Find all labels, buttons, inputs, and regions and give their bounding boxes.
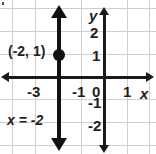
y-axis-up-arrow-icon (99, 7, 109, 15)
gridline-horizontal-y-pos3 (0, 8, 156, 9)
x-axis-left-arrow-icon (1, 72, 9, 82)
point-coordinate-label: (-2, 1) (8, 44, 45, 58)
plotted-line-down-arrow-icon (51, 138, 67, 151)
line-equation-label: x = -2 (7, 113, 43, 127)
y-axis-label: y (89, 8, 97, 23)
gridline-horizontal-y-pos2 (0, 31, 156, 32)
x-axis (6, 76, 148, 79)
y-tick-label-neg2: -2 (88, 118, 101, 133)
y-tick-label-pos1: 1 (92, 48, 100, 63)
y-tick-label-neg1: -1 (88, 95, 101, 110)
x-tick-label-neg3: -3 (27, 84, 40, 99)
plotted-line-up-arrow-icon (51, 5, 67, 18)
y-axis-down-arrow-icon (99, 145, 109, 153)
x-tick-label-pos1: 1 (123, 84, 131, 99)
y-tick-label-pos2: 2 (90, 25, 98, 40)
plotted-point (53, 49, 65, 61)
coordinate-plane-graph: x y -3 -1 0 1 2 1 -1 -2 (-2, 1) x = -2 (0, 0, 156, 154)
y-axis (103, 14, 106, 150)
x-axis-right-arrow-icon (146, 72, 154, 82)
x-tick-label-neg1: -1 (72, 84, 85, 99)
x-axis-label: x (140, 86, 148, 101)
gridline-horizontal-y-neg3 (0, 145, 156, 146)
scan-artifact-speck (2, 2, 4, 5)
plotted-vertical-line (57, 14, 61, 142)
